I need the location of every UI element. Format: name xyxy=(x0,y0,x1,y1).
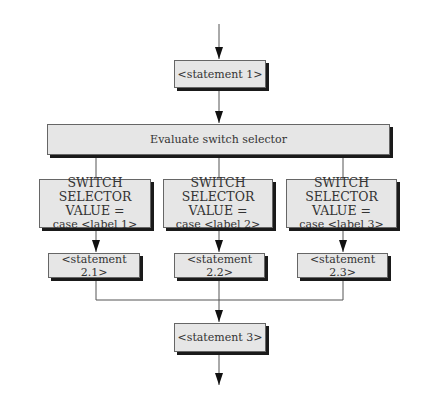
statement-2-1-box: <statement 2.1> xyxy=(48,253,140,278)
case-line2: VALUE = xyxy=(66,204,125,218)
case-line1: SWITCH SELECTOR xyxy=(287,176,396,204)
statement-label: <statement 2.2> xyxy=(175,253,264,279)
statement-2-3-box: <statement 2.3> xyxy=(297,253,388,278)
statement-1-label: <statement 1> xyxy=(178,68,263,81)
evaluate-label: Evaluate switch selector xyxy=(150,133,287,146)
case-box-2: SWITCH SELECTOR VALUE = case <label 2> xyxy=(163,179,273,228)
statement-3-label: <statement 3> xyxy=(178,331,263,344)
case-line1: SWITCH SELECTOR xyxy=(164,176,272,204)
case-line2: VALUE = xyxy=(189,204,248,218)
statement-label: <statement 2.3> xyxy=(298,253,387,279)
statement-1-box: <statement 1> xyxy=(174,60,266,88)
statement-3-box: <statement 3> xyxy=(174,323,266,352)
case-label: case <label 3> xyxy=(299,218,383,232)
evaluate-selector-box: Evaluate switch selector xyxy=(47,124,390,155)
case-line2: VALUE = xyxy=(312,204,371,218)
statement-2-2-box: <statement 2.2> xyxy=(174,253,265,278)
case-label: case <label 2> xyxy=(176,218,260,232)
statement-label: <statement 2.1> xyxy=(49,253,139,279)
case-label: case <label 1> xyxy=(53,218,137,232)
case-box-1: SWITCH SELECTOR VALUE = case <label 1> xyxy=(39,179,151,228)
case-line1: SWITCH SELECTOR xyxy=(40,176,150,204)
case-box-3: SWITCH SELECTOR VALUE = case <label 3> xyxy=(286,179,397,228)
